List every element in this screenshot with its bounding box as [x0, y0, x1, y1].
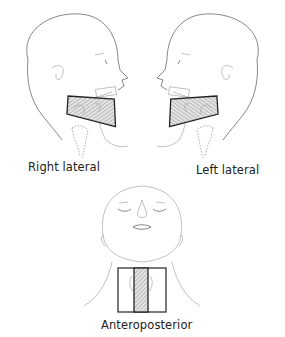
anteroposterior-head: [84, 186, 200, 312]
anteroposterior-label: Anteroposterior: [101, 318, 192, 332]
right-lateral-label: Right lateral: [28, 160, 100, 174]
left-lateral-label: Left lateral: [196, 163, 259, 177]
right-lateral-head: [27, 14, 128, 158]
left-lateral-head: [157, 14, 258, 158]
